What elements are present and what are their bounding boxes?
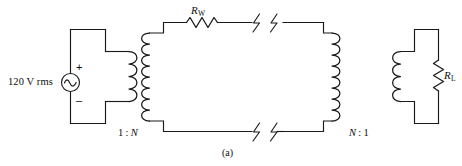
right-transformer-secondary-coil: [393, 52, 401, 102]
left-transformer-ratio-label: 1:N: [118, 128, 138, 139]
left-secondary-top-lead: [150, 23, 187, 34]
right-primary-top-lead: [324, 23, 333, 34]
right-ratio-secondary: 1: [364, 127, 370, 138]
bottom-break-mark-1: [253, 123, 260, 141]
left-ratio-separator: :: [124, 127, 131, 138]
circuit-schematic: [0, 0, 462, 166]
load-resistor-symbol: R: [444, 69, 451, 81]
source-plus-sign: +: [76, 62, 82, 73]
load-resistor-rl: [434, 60, 444, 91]
line-resistor-subscript: W: [198, 9, 205, 18]
right-transformer-ratio-label: N:1: [349, 128, 369, 139]
figure-caption: (a): [222, 148, 233, 158]
bottom-break-mark-2: [271, 123, 278, 141]
right-ratio-separator: :: [356, 127, 363, 138]
line-resistor-rw: [187, 18, 218, 28]
figure-canvas: 120 V rms + – RW RL 1:N N:1 (a): [0, 0, 462, 166]
source-voltage-label: 120 V rms: [8, 77, 53, 88]
left-ratio-primary: 1: [118, 127, 124, 138]
top-break-mark-1: [253, 14, 260, 32]
right-transformer-primary-coil: [332, 33, 340, 121]
load-resistor-subscript: L: [451, 74, 456, 83]
left-secondary-bottom-lead: [150, 121, 164, 132]
line-resistor-label: RW: [191, 5, 205, 16]
line-resistor-symbol: R: [191, 4, 198, 16]
load-top-lead-stub: [401, 30, 439, 52]
top-break-mark-2: [271, 14, 278, 32]
left-ratio-secondary: N: [131, 127, 138, 138]
source-minus-sign: –: [76, 95, 82, 106]
load-resistor-label: RL: [444, 70, 455, 81]
right-primary-bottom-lead: [283, 121, 332, 132]
left-transformer-primary-coil: [129, 52, 137, 102]
left-transformer-secondary-coil: [142, 33, 150, 121]
load-bottom-lead-stub: [401, 102, 439, 124]
